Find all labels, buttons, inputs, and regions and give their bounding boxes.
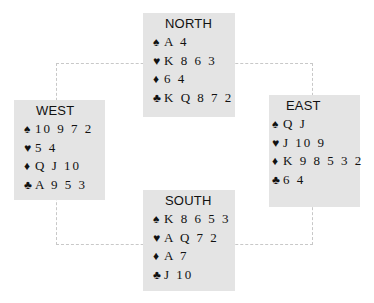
west-hearts-row: ♥5 4 (24, 139, 105, 158)
heart-icon: ♥ (153, 230, 164, 248)
west-clubs-cards: A 9 5 3 (35, 177, 87, 192)
west-spades-cards: 10 9 7 2 (35, 121, 93, 136)
spade-icon: ♠ (272, 116, 283, 134)
hand-south: SOUTH ♠K 8 6 5 3 ♥A Q 7 2 ♦A 7 ♣J 10 (143, 190, 235, 291)
north-clubs-cards: K Q 8 7 2 (164, 90, 233, 105)
south-clubs-cards: J 10 (164, 267, 193, 282)
hand-east: EAST ♠Q J ♥J 10 9 ♦K 9 8 5 3 2 ♣6 4 (269, 95, 360, 207)
diamond-icon: ♦ (153, 248, 164, 266)
south-diamonds-cards: A 7 (164, 248, 188, 263)
west-spades-row: ♠10 9 7 2 (24, 120, 105, 139)
east-diamonds-cards: K 9 8 5 3 2 (283, 153, 363, 168)
south-hearts-cards: A Q 7 2 (164, 230, 219, 245)
east-clubs-row: ♣6 4 (272, 171, 360, 190)
north-diamonds-cards: 6 4 (164, 71, 186, 86)
west-diamonds-row: ♦Q J 10 (24, 157, 105, 176)
east-clubs-cards: 6 4 (283, 172, 305, 187)
heart-icon: ♥ (272, 135, 283, 153)
diamond-icon: ♦ (153, 71, 164, 89)
club-icon: ♣ (153, 90, 164, 108)
west-diamonds-cards: Q J 10 (35, 158, 81, 173)
club-icon: ♣ (24, 177, 35, 195)
hand-north: NORTH ♠A 4 ♥K 8 6 3 ♦6 4 ♣K Q 8 7 2 (143, 13, 235, 117)
spade-icon: ♠ (24, 121, 35, 139)
south-diamonds-row: ♦A 7 (153, 247, 235, 266)
north-diamonds-row: ♦6 4 (153, 70, 235, 89)
south-spades-row: ♠K 8 6 5 3 (153, 210, 235, 229)
spade-icon: ♠ (153, 34, 164, 52)
north-hearts-row: ♥K 8 6 3 (153, 52, 235, 71)
east-hearts-row: ♥J 10 9 (272, 134, 360, 153)
hand-north-label: NORTH (165, 17, 235, 31)
west-clubs-row: ♣A 9 5 3 (24, 176, 105, 195)
hand-west-label: WEST (36, 104, 105, 118)
diamond-icon: ♦ (272, 153, 283, 171)
spade-icon: ♠ (153, 211, 164, 229)
west-hearts-cards: 5 4 (35, 140, 57, 155)
north-spades-row: ♠A 4 (153, 33, 235, 52)
hand-west: WEST ♠10 9 7 2 ♥5 4 ♦Q J 10 ♣A 9 5 3 (14, 100, 105, 200)
east-hearts-cards: J 10 9 (283, 135, 326, 150)
heart-icon: ♥ (153, 53, 164, 71)
diamond-icon: ♦ (24, 158, 35, 176)
east-spades-row: ♠Q J (272, 115, 360, 134)
heart-icon: ♥ (24, 140, 35, 158)
north-spades-cards: A 4 (164, 34, 188, 49)
south-spades-cards: K 8 6 5 3 (164, 211, 230, 226)
club-icon: ♣ (272, 172, 283, 190)
north-hearts-cards: K 8 6 3 (164, 53, 217, 68)
east-diamonds-row: ♦K 9 8 5 3 2 (272, 152, 360, 171)
south-clubs-row: ♣J 10 (153, 266, 235, 285)
hand-south-label: SOUTH (165, 194, 235, 208)
south-hearts-row: ♥A Q 7 2 (153, 229, 235, 248)
east-spades-cards: Q J (283, 116, 307, 131)
north-clubs-row: ♣K Q 8 7 2 (153, 89, 235, 108)
hand-east-label: EAST (286, 99, 360, 113)
club-icon: ♣ (153, 267, 164, 285)
